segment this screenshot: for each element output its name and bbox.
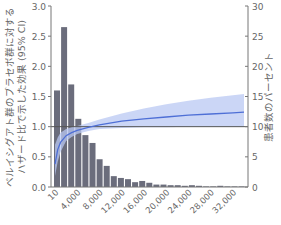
histogram-bar (111, 176, 117, 187)
x-tick-label: 10 (46, 187, 61, 202)
left-axis-ticks: 0.00.51.01.52.02.53.0 (32, 2, 51, 193)
left-tick-label: 0.5 (32, 152, 46, 162)
histogram-bar (104, 166, 110, 187)
right-tick-label: 25 (252, 32, 263, 42)
right-tick-label: 0 (252, 183, 258, 193)
x-tick-label: 4,000 (58, 187, 82, 211)
right-tick-label: 30 (252, 2, 264, 12)
x-axis-ticks: 104,0008,00012,00016,00020,00024,00028,0… (46, 187, 239, 215)
histogram-bar (118, 178, 124, 187)
left-tick-label: 1.5 (32, 92, 46, 102)
histogram-bar (82, 135, 88, 187)
histogram-bar (132, 182, 138, 187)
histogram-bar (90, 143, 96, 187)
left-tick-label: 2.0 (32, 62, 47, 72)
right-tick-label: 5 (252, 152, 258, 162)
histogram-bar (61, 27, 67, 187)
histogram-bar (125, 179, 131, 187)
x-tick-label: 32,000 (210, 187, 238, 215)
right-tick-label: 15 (252, 92, 263, 102)
histogram-bar (146, 183, 152, 187)
left-tick-label: 0.0 (32, 183, 47, 193)
chart: 0.00.51.01.52.02.53.0 051015202530 104,0… (0, 0, 281, 225)
right-axis-title: 患者数のパーセント (263, 52, 274, 142)
histogram-bar (139, 181, 145, 187)
histogram-bar (97, 159, 103, 187)
right-tick-label: 10 (252, 122, 264, 132)
left-tick-label: 3.0 (32, 2, 47, 12)
left-tick-label: 2.5 (32, 32, 46, 42)
left-tick-label: 1.0 (32, 122, 47, 132)
left-axis-title-line2: ハザード比で示した効果 (95% CI) (16, 20, 27, 174)
left-axis-title-line1: ベルイシグアト群のプラセボ群に対する (4, 7, 15, 187)
right-tick-label: 20 (252, 62, 264, 72)
